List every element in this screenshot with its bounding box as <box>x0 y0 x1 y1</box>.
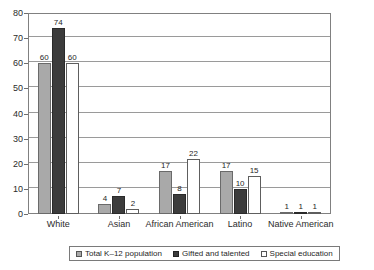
legend-label: Total K–12 population <box>85 250 162 258</box>
bar-value-label: 17 <box>222 162 231 170</box>
x-axis-tick-mark <box>119 216 120 219</box>
x-axis-tick-label: White <box>47 220 70 229</box>
bar-value-label: 60 <box>40 54 49 62</box>
y-axis: 01020304050607080 <box>0 0 28 270</box>
bar <box>308 212 321 215</box>
x-axis-tick-mark <box>180 216 181 219</box>
x-axis-tick-mark <box>58 216 59 219</box>
legend-label: Special education <box>270 250 333 258</box>
x-axis-tick-label: Native American <box>268 220 334 229</box>
bar-value-label: 74 <box>54 19 63 27</box>
x-axis: WhiteAsianAfrican AmericanLatinoNative A… <box>28 216 331 234</box>
bar <box>294 212 307 215</box>
bar-value-label: 7 <box>117 187 121 195</box>
bar-value-label: 1 <box>298 203 302 211</box>
bar-group: 472 <box>98 13 139 214</box>
bar <box>126 209 139 214</box>
y-axis-tick-label: 60 <box>13 59 23 68</box>
bar <box>187 159 200 214</box>
y-axis-tick-label: 40 <box>13 109 23 118</box>
bar-value-label: 2 <box>131 200 135 208</box>
chart-legend: Total K–12 populationGifted and talented… <box>69 246 340 261</box>
y-axis-tick-mark <box>24 214 28 215</box>
x-axis-tick-mark <box>240 216 241 219</box>
y-axis-tick-label: 80 <box>13 9 23 18</box>
bar-group: 17822 <box>159 13 200 214</box>
legend-swatch-icon <box>76 251 82 257</box>
bar <box>159 171 172 214</box>
bar-value-label: 10 <box>236 180 245 188</box>
bar-value-label: 8 <box>177 185 181 193</box>
bar-chart: 01020304050607080 6074604721782217101511… <box>0 0 374 270</box>
bars-layer: 60746047217822171015111 <box>28 13 331 214</box>
x-axis-tick-label: Asian <box>108 220 131 229</box>
bar-group: 111 <box>280 13 321 214</box>
bar <box>112 196 125 214</box>
legend-label: Gifted and talented <box>182 250 250 258</box>
bar <box>248 176 261 214</box>
y-axis-tick-label: 50 <box>13 84 23 93</box>
bar-group: 171015 <box>220 13 261 214</box>
bar-group: 607460 <box>38 13 79 214</box>
legend-item[interactable]: Special education <box>261 250 333 258</box>
bar <box>173 194 186 214</box>
x-axis-tick-label: Latino <box>228 220 253 229</box>
bar <box>98 204 111 214</box>
x-axis-tick-mark <box>301 216 302 219</box>
bar-value-label: 4 <box>103 195 107 203</box>
bar-value-label: 60 <box>68 54 77 62</box>
y-axis-tick-label: 70 <box>13 34 23 43</box>
bar <box>52 28 65 214</box>
bar-value-label: 1 <box>312 203 316 211</box>
bar <box>220 171 233 214</box>
bar-value-label: 17 <box>161 162 170 170</box>
y-axis-tick-label: 0 <box>18 210 23 219</box>
bar-value-label: 1 <box>284 203 288 211</box>
legend-swatch-icon <box>261 251 267 257</box>
legend-swatch-icon <box>173 251 179 257</box>
legend-item[interactable]: Gifted and talented <box>173 250 250 258</box>
x-axis-tick-label: African American <box>145 220 213 229</box>
bar-value-label: 15 <box>250 167 259 175</box>
y-axis-tick-label: 10 <box>13 184 23 193</box>
bar <box>280 212 293 215</box>
bar <box>66 63 79 214</box>
bar-value-label: 22 <box>189 150 198 158</box>
y-axis-tick-label: 20 <box>13 159 23 168</box>
bar <box>234 189 247 214</box>
bar <box>38 63 51 214</box>
y-axis-tick-label: 30 <box>13 134 23 143</box>
legend-item[interactable]: Total K–12 population <box>76 250 162 258</box>
